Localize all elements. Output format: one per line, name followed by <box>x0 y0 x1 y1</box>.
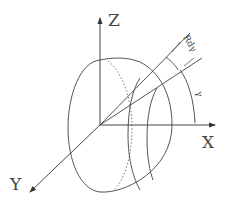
x-axis-label: X <box>202 132 215 152</box>
hemisphere-diagram: Z X Y Rdγ γ <box>0 0 227 202</box>
arc-width-label: Rdγ <box>181 33 199 54</box>
meridian-slice-2 <box>147 88 157 180</box>
arc-segment <box>166 57 178 70</box>
angle-arc <box>180 70 195 123</box>
angle-label: γ <box>194 90 205 98</box>
dim-ext-1 <box>172 42 180 52</box>
z-axis-label: Z <box>108 10 120 30</box>
diagram-canvas: Z X Y Rdγ γ <box>0 0 227 202</box>
y-axis <box>30 125 100 192</box>
y-axis-label: Y <box>9 174 22 194</box>
radial-line-2 <box>100 58 202 125</box>
